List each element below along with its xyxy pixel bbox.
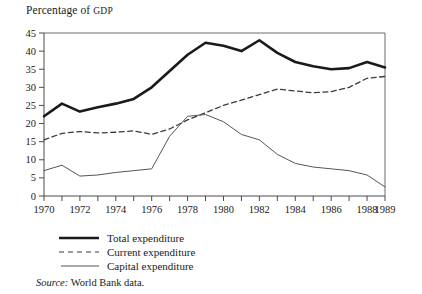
legend-item-current: Current expenditure (57, 245, 195, 259)
plot-frame (44, 33, 385, 196)
source-label: Source: (36, 277, 68, 288)
y-axis-ticks: 051015202530354045 (26, 28, 45, 202)
svg-text:15: 15 (26, 136, 37, 147)
series-line-capital-expenditure (44, 115, 385, 187)
svg-text:40: 40 (26, 46, 37, 57)
svg-text:1980: 1980 (213, 204, 234, 215)
legend-swatch-capital (57, 260, 101, 272)
x-axis-ticks (44, 196, 385, 201)
x-axis-tick-labels: 1970197219741976197819801982198419861988… (34, 204, 396, 215)
data-series-layer (44, 40, 385, 187)
legend-item-capital: Capital expenditure (57, 259, 195, 273)
chart-legend: Total expenditure Current expenditure Ca… (57, 231, 195, 273)
svg-text:1972: 1972 (69, 204, 90, 215)
svg-text:1976: 1976 (141, 204, 162, 215)
legend-label-capital: Capital expenditure (101, 259, 193, 273)
svg-text:1974: 1974 (105, 204, 127, 215)
legend-label-current: Current expenditure (101, 245, 195, 259)
series-line-total-expenditure (44, 40, 385, 116)
source-note: Source: World Bank data. (36, 277, 144, 288)
svg-text:20: 20 (26, 118, 37, 129)
svg-text:1982: 1982 (249, 204, 270, 215)
axis-title-text: Percentage of (26, 4, 93, 16)
svg-text:25: 25 (26, 100, 37, 111)
svg-text:5: 5 (31, 172, 36, 183)
svg-text:10: 10 (26, 154, 37, 165)
svg-text:35: 35 (26, 64, 37, 75)
legend-label-total: Total expenditure (101, 231, 184, 245)
svg-text:30: 30 (26, 82, 37, 93)
source-value: World Bank data. (68, 277, 144, 288)
axis-title: Percentage of GDP (26, 4, 113, 16)
svg-text:1970: 1970 (34, 204, 55, 215)
svg-text:1989: 1989 (375, 204, 396, 215)
legend-swatch-total (57, 232, 101, 244)
legend-item-total: Total expenditure (57, 231, 195, 245)
svg-text:1984: 1984 (285, 204, 307, 215)
svg-text:1986: 1986 (321, 204, 342, 215)
svg-text:1978: 1978 (177, 204, 198, 215)
svg-text:0: 0 (31, 191, 36, 202)
figure-gdp-expenditure: Percentage of GDP 051015202530354045 197… (0, 0, 422, 294)
axis-title-gdp: GDP (93, 6, 113, 16)
line-chart: 051015202530354045 197019721974197619781… (0, 18, 422, 218)
legend-swatch-current (57, 246, 101, 258)
svg-text:45: 45 (26, 28, 37, 39)
